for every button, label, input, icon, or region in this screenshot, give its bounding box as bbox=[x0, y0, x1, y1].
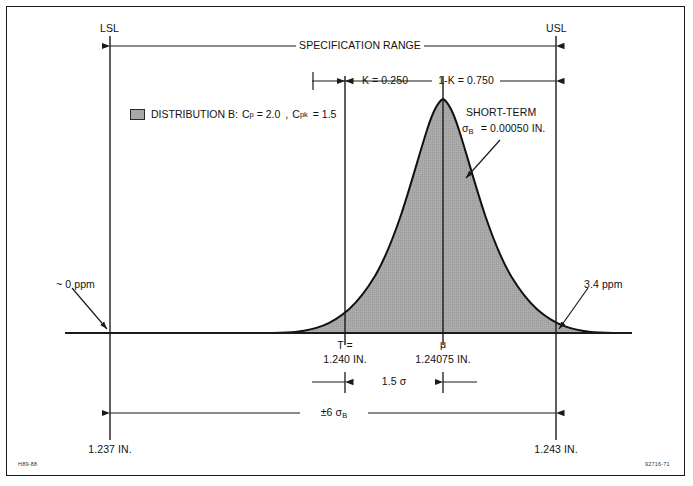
legend-cp-symbol: C bbox=[242, 108, 250, 120]
target-symbol-label: T = bbox=[337, 339, 353, 351]
mean-symbol-label: μ bbox=[440, 338, 446, 350]
corner-code-right: 92716-71 bbox=[645, 461, 670, 467]
legend-cpk-subscript: pk bbox=[300, 110, 308, 119]
sigma-subscript: B bbox=[469, 127, 474, 136]
short-term-sigma-annotation: σB = 0.00050 IN. bbox=[462, 122, 545, 136]
sigma-shift-value: 1.5 bbox=[382, 375, 397, 387]
legend-separator: , bbox=[285, 108, 288, 120]
short-term-title: SHORT-TERM bbox=[466, 106, 536, 118]
sigma-symbol: σ bbox=[462, 122, 469, 134]
legend-distribution-name: DISTRIBUTION B: bbox=[151, 108, 238, 120]
mean-value-label: 1.24075 IN. bbox=[415, 353, 470, 365]
ppm-left-label: ~ 0 ppm bbox=[56, 278, 95, 290]
lsl-value-label: 1.237 IN. bbox=[88, 443, 132, 455]
ppm-right-label: 3.4 ppm bbox=[584, 278, 623, 290]
usl-value-label: 1.243 IN. bbox=[534, 443, 578, 455]
total-spread-prefix: ±6 bbox=[321, 406, 336, 418]
one-minus-k-ratio-label: 1-K = 0.750 bbox=[438, 74, 494, 86]
specification-range-label: SPECIFICATION RANGE bbox=[299, 39, 421, 51]
legend-cpk-value: = 1.5 bbox=[313, 108, 337, 120]
capability-diagram-figure: LSL USL SPECIFICATION RANGE K = 0.250 1-… bbox=[0, 0, 693, 486]
ppm-left-leader-arrow bbox=[72, 288, 107, 329]
legend-distribution-b: DISTRIBUTION B: Cp = 2.0 , Cpk = 1.5 bbox=[130, 108, 336, 120]
sigma-shift-label: 1.5σ bbox=[382, 375, 407, 387]
total-spread-subscript: B bbox=[342, 411, 347, 420]
short-term-leader-arrow bbox=[466, 140, 500, 178]
legend-cpk-symbol: C bbox=[292, 108, 300, 120]
corner-code-left: H89-88 bbox=[18, 461, 37, 467]
usl-label: USL bbox=[546, 22, 567, 34]
lsl-label: LSL bbox=[100, 22, 119, 34]
legend-cp-subscript: p bbox=[250, 110, 254, 119]
ppm-right-leader-arrow bbox=[559, 288, 588, 329]
k-ratio-label: K = 0.250 bbox=[362, 74, 408, 86]
legend-cp-value: = 2.0 bbox=[257, 108, 281, 120]
total-spread-label: ±6 σB bbox=[321, 406, 348, 420]
target-value-label: 1.240 IN. bbox=[323, 353, 367, 365]
legend-color-swatch bbox=[130, 109, 145, 120]
sigma-value: = 0.00050 IN. bbox=[481, 122, 546, 134]
sigma-shift-symbol: σ bbox=[400, 375, 407, 387]
